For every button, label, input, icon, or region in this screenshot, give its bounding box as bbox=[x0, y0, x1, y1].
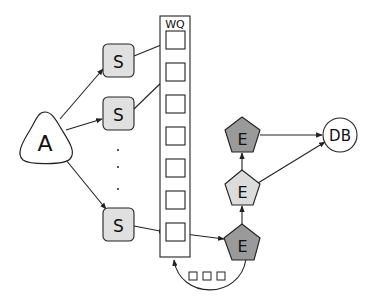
s2-label: S bbox=[113, 105, 124, 125]
dot bbox=[117, 188, 119, 190]
ellipsis-dots bbox=[117, 149, 119, 190]
edges bbox=[60, 43, 325, 290]
node-e-mid: E bbox=[225, 170, 260, 205]
wq-slot-4 bbox=[166, 127, 185, 145]
dot bbox=[117, 149, 119, 151]
workflow-diagram: A S S S WQ bbox=[0, 0, 376, 306]
wq-slot-3 bbox=[166, 95, 185, 113]
e-top-label: E bbox=[237, 130, 247, 149]
dot bbox=[117, 166, 119, 168]
s3-label: S bbox=[113, 216, 124, 236]
node-s1: S bbox=[103, 44, 134, 77]
node-e-top: E bbox=[225, 117, 260, 152]
edge-wq-ebot bbox=[185, 234, 224, 239]
wq-slot-7 bbox=[166, 223, 185, 241]
loop-item bbox=[189, 272, 197, 280]
wq-slot-6 bbox=[166, 191, 185, 209]
node-e-bot: E bbox=[224, 224, 260, 260]
s1-label: S bbox=[113, 52, 124, 72]
loop-item bbox=[217, 272, 225, 280]
loop-item bbox=[203, 272, 211, 280]
e-mid-label: E bbox=[237, 183, 247, 202]
node-a: A bbox=[20, 112, 73, 164]
e-bot-label: E bbox=[237, 237, 247, 256]
edge-a-s3 bbox=[66, 160, 106, 209]
wq-slot-2 bbox=[166, 63, 185, 81]
a-label: A bbox=[37, 131, 52, 156]
wq-slot-5 bbox=[166, 159, 185, 177]
edge-a-s1 bbox=[60, 69, 103, 119]
edge-emid-db bbox=[258, 142, 325, 183]
wq-label: WQ bbox=[165, 18, 185, 31]
db-label: DB bbox=[329, 127, 351, 145]
edge-a-s2 bbox=[66, 119, 102, 130]
node-s3: S bbox=[103, 208, 134, 241]
node-s2: S bbox=[103, 97, 134, 130]
loop-items bbox=[189, 272, 225, 280]
wq-slot-1 bbox=[166, 31, 185, 49]
work-queue: WQ bbox=[160, 16, 190, 257]
node-db: DB bbox=[323, 118, 357, 152]
